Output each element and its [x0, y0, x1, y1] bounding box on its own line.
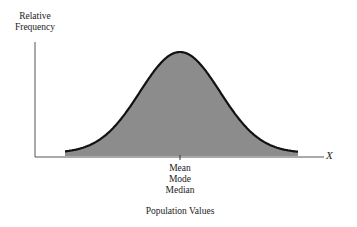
- mean-label: Mean: [150, 163, 210, 174]
- mode-label: Mode: [150, 174, 210, 185]
- median-label: Median: [150, 185, 210, 196]
- y-axis-label: Relative Frequency: [2, 11, 68, 33]
- center-labels: Mean Mode Median: [150, 163, 210, 196]
- y-label-line1: Relative: [2, 11, 68, 22]
- x-axis-title: Population Values: [120, 206, 240, 217]
- x-axis-symbol: X: [326, 150, 333, 161]
- y-label-line2: Frequency: [2, 22, 68, 33]
